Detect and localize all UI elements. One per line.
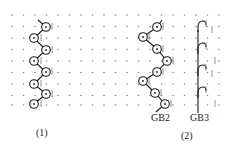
grid-dot — [103, 95, 105, 97]
grid-dot — [11, 83, 13, 85]
grid-dot — [207, 60, 209, 62]
grid-dot — [69, 83, 71, 85]
grid-dot — [69, 37, 71, 39]
grid-dot — [138, 104, 140, 106]
grid-dot — [126, 14, 128, 16]
grid-dot — [23, 104, 25, 106]
lapping-diagram: (1) (2) GB2 GB3 — [0, 0, 239, 151]
grid-dot — [23, 37, 25, 39]
grid-dot — [103, 104, 105, 106]
grid-dot — [103, 72, 105, 74]
grid-dot — [195, 26, 197, 28]
grid-dot — [138, 60, 140, 62]
grid-dot — [126, 72, 128, 74]
grid-dot — [126, 26, 128, 28]
panel-1-gb1-lapping — [30, 20, 52, 108]
grid-dot — [69, 60, 71, 62]
grid-dot — [57, 37, 59, 39]
grid-dot — [57, 72, 59, 74]
grid-dot — [34, 49, 36, 51]
grid-dot — [172, 95, 174, 97]
grid-dot — [115, 60, 117, 62]
loop-center — [45, 26, 47, 28]
grid-dot — [207, 49, 209, 51]
grid-dot — [172, 49, 174, 51]
grid-dot — [184, 14, 186, 16]
grid-dot — [57, 49, 59, 51]
loop-center — [45, 93, 47, 95]
grid-dot — [103, 49, 105, 51]
grid-dot — [115, 49, 117, 51]
grid-dot — [161, 60, 163, 62]
grid-dot — [11, 72, 13, 74]
grid-dot — [57, 60, 59, 62]
grid-dot — [46, 60, 48, 62]
grid-dot — [195, 60, 197, 62]
grid-dot — [149, 49, 151, 51]
grid-dot — [115, 83, 117, 85]
grid-dot — [92, 83, 94, 85]
grid-dot — [57, 95, 59, 97]
grid-dot — [195, 83, 197, 85]
grid-dot — [184, 49, 186, 51]
grid-dot — [195, 95, 197, 97]
loop-center — [45, 71, 47, 73]
loop-center — [154, 92, 156, 94]
grid-dot — [126, 60, 128, 62]
grid-dot — [11, 60, 13, 62]
grid-dot — [207, 14, 209, 16]
grid-dot — [138, 26, 140, 28]
caption-panel-1: (1) — [36, 128, 48, 138]
grid-dot — [92, 49, 94, 51]
grid-dot — [23, 83, 25, 85]
grid-dot — [207, 95, 209, 97]
grid-dot — [80, 60, 82, 62]
grid-dot — [115, 104, 117, 106]
grid-dot — [149, 14, 151, 16]
grid-dot — [80, 49, 82, 51]
loop-center — [33, 83, 35, 85]
label-gb3: GB3 — [190, 113, 209, 123]
grid-dot — [103, 26, 105, 28]
grid-dot — [80, 104, 82, 106]
grid-dot — [218, 14, 220, 16]
grid-dot — [184, 60, 186, 62]
grid-dot — [184, 95, 186, 97]
grid-dot — [57, 83, 59, 85]
grid-dot — [126, 104, 128, 106]
grid-dot — [34, 72, 36, 74]
grid-dot — [80, 83, 82, 85]
loop-center — [142, 36, 144, 38]
grid-dot — [92, 104, 94, 106]
grid-dot — [138, 95, 140, 97]
loop-center — [156, 48, 158, 50]
grid-dot — [69, 95, 71, 97]
grid-dot — [195, 104, 197, 106]
grid-dot — [69, 72, 71, 74]
grid-dot — [57, 14, 59, 16]
grid-dot — [126, 37, 128, 39]
grid-dot — [138, 49, 140, 51]
loop-center — [156, 26, 158, 28]
loop-center — [45, 49, 47, 51]
grid-dot — [207, 83, 209, 85]
grid-dot — [172, 104, 174, 106]
grid-dot — [115, 72, 117, 74]
grid-dot — [11, 26, 13, 28]
grid-dot — [69, 104, 71, 106]
grid-dot — [103, 83, 105, 85]
grid-dot — [46, 37, 48, 39]
label-gb2: GB2 — [151, 113, 170, 123]
grid-dot — [115, 95, 117, 97]
grid-dot — [207, 104, 209, 106]
grid-dot — [69, 26, 71, 28]
grid-dot — [161, 37, 163, 39]
grid-dot — [57, 26, 59, 28]
grid-dot — [92, 37, 94, 39]
grid-dot — [195, 37, 197, 39]
hook-loop — [198, 87, 206, 98]
grid-dot — [218, 104, 220, 106]
grid-dot — [34, 95, 36, 97]
panel-2-gb3-lapping — [198, 20, 215, 113]
caption-panel-2: (2) — [181, 131, 193, 141]
